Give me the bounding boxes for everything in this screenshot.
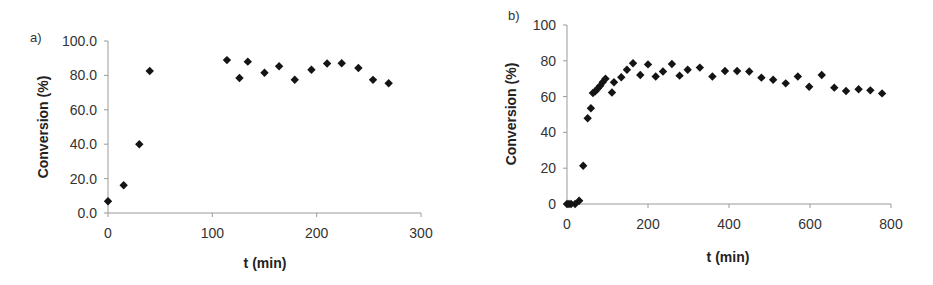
x-axis-title-b: t (min) — [707, 249, 750, 265]
y-tick-label: 80.0 — [70, 67, 97, 83]
data-points-b — [563, 59, 886, 208]
data-point-diamond — [119, 181, 127, 189]
data-point-diamond — [104, 197, 112, 205]
x-tick-label: 200 — [636, 216, 660, 232]
x-axis-a: 0100200300 — [104, 213, 433, 241]
data-point-diamond — [644, 60, 652, 68]
data-point-diamond — [354, 64, 362, 72]
y-tick-label: 20 — [540, 160, 556, 176]
data-point-diamond — [794, 72, 802, 80]
y-tick-label: 100.0 — [62, 33, 97, 49]
data-point-diamond — [721, 67, 729, 75]
x-tick-label: 100 — [201, 225, 225, 241]
y-tick-label: 60 — [540, 89, 556, 105]
data-point-diamond — [583, 114, 591, 122]
data-point-diamond — [260, 69, 268, 77]
data-point-diamond — [384, 79, 392, 87]
y-tick-label: 40.0 — [70, 136, 97, 152]
data-point-diamond — [769, 76, 777, 84]
data-point-diamond — [842, 87, 850, 95]
y-tick-label: 0 — [548, 196, 556, 212]
y-tick-label: 40 — [540, 124, 556, 140]
data-point-diamond — [629, 59, 637, 67]
data-point-diamond — [651, 72, 659, 80]
data-point-diamond — [244, 57, 252, 65]
x-ticks-b: 0200400600800 — [563, 204, 903, 232]
data-point-diamond — [708, 72, 716, 80]
data-point-diamond — [323, 59, 331, 67]
data-point-diamond — [659, 67, 667, 75]
data-point-diamond — [610, 78, 618, 86]
x-tick-label: 0 — [104, 225, 112, 241]
y-axis-a: 0.020.040.060.080.0100.0 — [62, 33, 108, 221]
panel-label-b: b) — [508, 8, 520, 23]
data-point-diamond — [782, 79, 790, 87]
data-points-a — [104, 56, 393, 206]
panel-label-a: a) — [30, 30, 42, 45]
data-point-diamond — [805, 83, 813, 91]
data-point-diamond — [369, 76, 377, 84]
data-point-diamond — [878, 89, 886, 97]
data-point-diamond — [587, 104, 595, 112]
x-tick-label: 300 — [409, 225, 433, 241]
data-point-diamond — [696, 63, 704, 71]
chart-b-plot: b) 020406080100 0200400600800 Conversion… — [466, 0, 933, 285]
data-point-diamond — [818, 71, 826, 79]
data-point-diamond — [146, 67, 154, 75]
y-tick-label: 80 — [540, 53, 556, 69]
data-point-diamond — [854, 85, 862, 93]
x-tick-label: 200 — [305, 225, 329, 241]
data-point-diamond — [307, 66, 315, 74]
y-tick-label: 60.0 — [70, 102, 97, 118]
x-tick-label: 400 — [717, 216, 741, 232]
x-tick-label: 0 — [563, 216, 571, 232]
x-ticks-a: 0100200300 — [104, 213, 433, 241]
y-ticks-b: 020406080100 — [533, 17, 567, 212]
data-point-diamond — [608, 88, 616, 96]
y-ticks-a: 0.020.040.060.080.0100.0 — [62, 33, 108, 221]
y-axis-title-a: Conversion (%) — [35, 76, 51, 179]
data-point-diamond — [338, 59, 346, 67]
data-point-diamond — [683, 66, 691, 74]
y-tick-label: 100 — [533, 17, 557, 33]
data-point-diamond — [745, 67, 753, 75]
data-point-diamond — [223, 56, 231, 64]
y-axis-b: 020406080100 — [533, 17, 567, 212]
data-point-diamond — [675, 71, 683, 79]
chart-a: a) 0.020.040.060.080.0100.0 0100200300 C… — [0, 0, 460, 285]
data-point-diamond — [757, 73, 765, 81]
y-axis-title-b: Conversion (%) — [503, 63, 519, 166]
chart-b: b) 020406080100 0200400600800 Conversion… — [466, 0, 933, 285]
x-axis-title-a: t (min) — [244, 255, 287, 271]
data-point-diamond — [235, 74, 243, 82]
data-point-diamond — [275, 62, 283, 70]
data-point-diamond — [623, 66, 631, 74]
data-point-diamond — [291, 76, 299, 84]
y-tick-label: 0.0 — [78, 205, 98, 221]
y-tick-label: 20.0 — [70, 171, 97, 187]
data-point-diamond — [617, 73, 625, 81]
chart-a-plot: a) 0.020.040.060.080.0100.0 0100200300 C… — [0, 0, 460, 285]
data-point-diamond — [668, 60, 676, 68]
data-point-diamond — [866, 86, 874, 94]
x-axis-b: 0200400600800 — [563, 204, 903, 232]
data-point-diamond — [579, 161, 587, 169]
data-point-diamond — [135, 140, 143, 148]
data-point-diamond — [733, 67, 741, 75]
x-tick-label: 800 — [879, 216, 903, 232]
x-tick-label: 600 — [798, 216, 822, 232]
data-point-diamond — [636, 71, 644, 79]
data-point-diamond — [830, 83, 838, 91]
